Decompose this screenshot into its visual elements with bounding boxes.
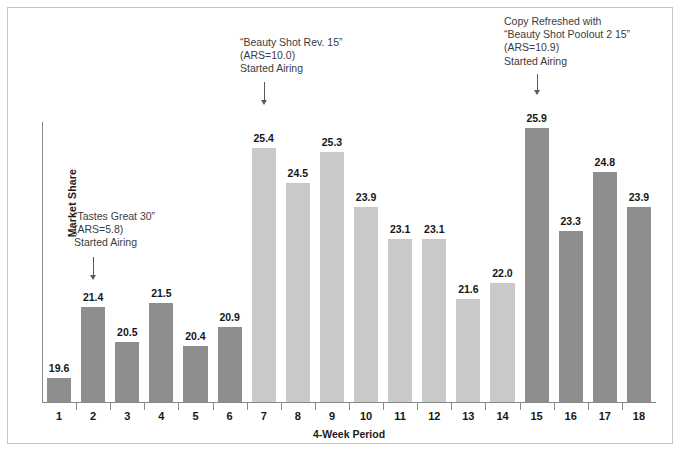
x-tick-label-16: 16 xyxy=(554,410,588,422)
bar-group: 23.1 xyxy=(417,100,451,402)
x-axis-tick xyxy=(110,403,111,410)
bar-group: 25.4 xyxy=(247,100,281,402)
x-axis-tick xyxy=(315,403,316,410)
bar xyxy=(593,172,617,402)
x-axis-tick xyxy=(451,403,452,410)
x-axis-tick xyxy=(520,403,521,410)
bar-group: 21.5 xyxy=(144,100,178,402)
bar xyxy=(422,239,446,402)
bar xyxy=(320,152,344,402)
bar-group: 21.4 xyxy=(76,100,110,402)
x-tick-label-15: 15 xyxy=(520,410,554,422)
x-axis-tick xyxy=(383,403,384,410)
bar xyxy=(81,307,105,402)
x-axis-title: 4-Week Period xyxy=(42,428,656,440)
bar xyxy=(627,207,651,402)
x-tick-label-10: 10 xyxy=(349,410,383,422)
x-tick-label-18: 18 xyxy=(622,410,656,422)
bar-group: 23.9 xyxy=(349,100,383,402)
bar-group: 20.5 xyxy=(110,100,144,402)
bar-group: 20.9 xyxy=(213,100,247,402)
x-tick-label-1: 1 xyxy=(42,410,76,422)
x-tick-label-11: 11 xyxy=(383,410,417,422)
chart-figure: Market Share 4-Week Period 19.621.420.52… xyxy=(0,0,682,453)
annotation-arrow-beauty-shot-rev-15 xyxy=(260,82,269,106)
x-axis-tick xyxy=(588,403,589,410)
bar xyxy=(388,239,412,402)
bar xyxy=(559,231,583,402)
x-axis-tick xyxy=(281,403,282,410)
bar xyxy=(252,148,276,402)
bar xyxy=(149,303,173,402)
x-tick-label-4: 4 xyxy=(144,410,178,422)
annotation-beauty-shot-rev-15: “Beauty Shot Rev. 15” (ARS=10.0) Started… xyxy=(240,36,343,76)
annotation-beauty-shot-poolout-2-15: Copy Refreshed with “Beauty Shot Poolout… xyxy=(504,15,630,68)
annotation-arrow-beauty-shot-poolout-2-15 xyxy=(533,74,542,98)
x-axis-tick xyxy=(76,403,77,410)
x-tick-label-9: 9 xyxy=(315,410,349,422)
bar-group: 23.9 xyxy=(622,100,656,402)
bar-group: 21.6 xyxy=(451,100,485,402)
x-axis-tick xyxy=(247,403,248,410)
x-tick-label-14: 14 xyxy=(486,410,520,422)
x-axis-tick xyxy=(485,403,486,410)
x-axis-tick xyxy=(349,403,350,410)
x-axis-tick xyxy=(178,403,179,410)
x-tick-label-13: 13 xyxy=(451,410,485,422)
x-tick-label-2: 2 xyxy=(76,410,110,422)
bar xyxy=(456,299,480,402)
bar xyxy=(286,183,310,402)
bar xyxy=(183,346,207,402)
bar-group: 25.9 xyxy=(520,100,554,402)
x-axis-tick xyxy=(554,403,555,410)
bar xyxy=(218,327,242,403)
x-axis-tick xyxy=(144,403,145,410)
x-tick-label-7: 7 xyxy=(247,410,281,422)
x-axis-tick xyxy=(213,403,214,410)
bar-group: 19.6 xyxy=(42,100,76,402)
x-tick-label-12: 12 xyxy=(417,410,451,422)
bar xyxy=(490,283,514,402)
bar-group: 22.0 xyxy=(485,100,519,402)
x-tick-label-17: 17 xyxy=(588,410,622,422)
plot-area: 19.621.420.521.520.420.925.424.525.323.9… xyxy=(42,100,656,402)
bar xyxy=(115,342,139,402)
bar-group: 23.3 xyxy=(554,100,588,402)
bar xyxy=(525,128,549,402)
x-axis-tick xyxy=(417,403,418,410)
annotation-tastes-great-30: “Tastes Great 30” (ARS=5.8) Started Airi… xyxy=(74,210,155,250)
x-tick-label-6: 6 xyxy=(213,410,247,422)
x-tick-label-8: 8 xyxy=(281,410,315,422)
x-tick-label-5: 5 xyxy=(179,410,213,422)
bar-group: 23.1 xyxy=(383,100,417,402)
x-axis-tick xyxy=(622,403,623,410)
annotation-arrow-tastes-great-30 xyxy=(89,257,98,281)
bar-group: 24.8 xyxy=(588,100,622,402)
bar xyxy=(354,207,378,402)
bar-value-label: 23.9 xyxy=(616,191,662,203)
x-tick-label-3: 3 xyxy=(110,410,144,422)
bar-group: 20.4 xyxy=(178,100,212,402)
bar xyxy=(47,378,71,402)
bar-group: 25.3 xyxy=(315,100,349,402)
